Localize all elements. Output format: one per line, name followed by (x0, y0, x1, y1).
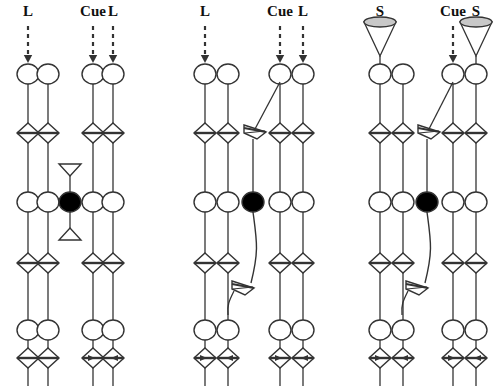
soma-layer3 (82, 320, 104, 340)
soma-layer1 (217, 64, 239, 84)
circuit-diagram-root: LCueLLCueLSCueS (0, 0, 504, 390)
soma-layer2 (392, 192, 414, 212)
soma-layer1 (442, 64, 464, 84)
soma-layer2 (102, 192, 124, 212)
soma-layer3 (442, 320, 464, 340)
interneuron-top-triangle (59, 164, 81, 176)
soma-layer3 (392, 320, 414, 340)
soma-layer2 (37, 192, 59, 212)
soma-layer3 (102, 320, 124, 340)
soma-layer3 (269, 320, 291, 340)
input-arrowhead (24, 55, 32, 63)
label-cue: Cue (80, 3, 106, 19)
interneuron-bottom-triangle (59, 228, 81, 240)
input-arrowhead (299, 55, 307, 63)
soma-layer2 (369, 192, 391, 212)
soma-layer3 (194, 320, 216, 340)
soma-layer2 (292, 192, 314, 212)
soma-layer2 (82, 192, 104, 212)
label-l: L (23, 3, 33, 19)
label-cue: Cue (267, 3, 293, 19)
soma-layer1 (392, 64, 414, 84)
soma-layer3 (17, 320, 39, 340)
soma-layer1 (292, 64, 314, 84)
soma-layer2 (194, 192, 216, 212)
soma-layer1 (194, 64, 216, 84)
input-cone-top-ellipse (460, 17, 492, 27)
input-arrowhead (109, 55, 117, 63)
soma-layer2 (465, 192, 487, 212)
interneuron-curved-axon (425, 212, 431, 283)
oblique-cue-connector (429, 82, 453, 129)
soma-layer2 (442, 192, 464, 212)
label-cue: Cue (440, 3, 466, 19)
interneuron-soma (59, 192, 81, 212)
soma-layer3 (465, 320, 487, 340)
interneuron-soma (242, 192, 264, 212)
soma-layer1 (37, 64, 59, 84)
soma-layer1 (465, 64, 487, 84)
soma-layer1 (369, 64, 391, 84)
soma-layer3 (292, 320, 314, 340)
interneuron-soma (416, 192, 438, 212)
label-l: L (108, 3, 118, 19)
soma-layer1 (17, 64, 39, 84)
soma-layer1 (82, 64, 104, 84)
soma-layer1 (102, 64, 124, 84)
soma-layer3 (217, 320, 239, 340)
label-l: L (200, 3, 210, 19)
interneuron-curved-axon (251, 212, 257, 283)
soma-layer1 (269, 64, 291, 84)
circuit-svg: LCueLLCueLSCueS (0, 0, 504, 390)
soma-layer2 (17, 192, 39, 212)
input-arrowhead (449, 55, 457, 63)
soma-layer2 (217, 192, 239, 212)
soma-layer3 (37, 320, 59, 340)
input-arrowhead (201, 55, 209, 63)
oblique-cue-connector (255, 82, 280, 129)
input-arrowhead (276, 55, 284, 63)
interneuron-output-tail (228, 291, 234, 315)
soma-layer2 (269, 192, 291, 212)
input-arrowhead (89, 55, 97, 63)
input-cone-top-ellipse (364, 17, 396, 27)
soma-layer3 (369, 320, 391, 340)
label-l: L (298, 3, 308, 19)
